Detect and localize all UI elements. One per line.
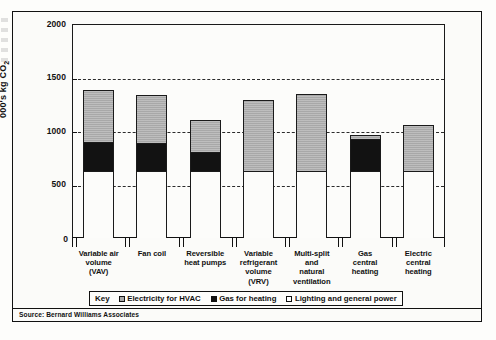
edge-artifact <box>1 38 8 42</box>
bar-7-segment-0 <box>403 172 434 238</box>
legend-item-lighting: Lighting and general power <box>286 294 396 303</box>
y-tick-zero-label: 0 <box>26 234 68 244</box>
x-category-label-3: Reversibleheat pumps <box>176 249 235 267</box>
x-tick-1 <box>125 238 126 247</box>
bar-3-segment-2 <box>190 120 221 153</box>
x-category-label-6: Gascentralheating <box>335 249 394 277</box>
bar-3 <box>190 120 221 238</box>
x-category-label-2: Fan coil <box>122 249 181 258</box>
bar-4-segment-0 <box>243 172 274 238</box>
bar-5-segment-0 <box>296 172 327 238</box>
legend-label-lighting: Lighting and general power <box>295 294 397 303</box>
bar-1-segment-0 <box>83 172 114 238</box>
x-category-label-5: Multi-splitandnaturalventilation <box>282 249 341 286</box>
edge-artifact <box>1 48 8 52</box>
bar-5 <box>296 94 327 238</box>
bar-2-segment-0 <box>136 172 167 238</box>
x-category-label-7: Electriccentralheating <box>389 249 448 277</box>
legend-label-gas: Gas for heating <box>219 294 276 303</box>
bar-1-segment-2 <box>83 90 114 144</box>
legend-item-electricity: Electricity for HVAC <box>119 294 201 303</box>
x-tick-inner-3 <box>236 238 237 247</box>
bar-1-segment-1 <box>83 143 114 171</box>
legend-swatch-electricity-icon <box>119 296 125 302</box>
bar-3-segment-1 <box>190 153 221 171</box>
bar-6 <box>350 135 381 238</box>
legend-swatch-gas-icon <box>211 296 217 302</box>
x-tick-2 <box>179 238 180 247</box>
y-tick-label-500: 500 <box>20 180 66 189</box>
x-axis-ticks <box>72 238 445 247</box>
x-tick-inner-1 <box>129 238 130 247</box>
x-tick-inner-4 <box>289 238 290 247</box>
y-tick-label-1000: 1000 <box>20 127 66 136</box>
x-category-label-1: Variable airvolume(VAV) <box>69 249 128 277</box>
legend-item-gas: Gas for heating <box>211 294 277 303</box>
bar-2-segment-2 <box>136 95 167 145</box>
bar-1 <box>83 90 114 238</box>
x-tick-3 <box>232 238 233 247</box>
bar-2 <box>136 95 167 238</box>
bar-4-segment-2 <box>243 100 274 172</box>
chart-page: 000's kg CO2 500100015002000 0 Variable … <box>0 0 496 340</box>
bar-5-segment-2 <box>296 94 327 172</box>
x-tick-inner-2 <box>183 238 184 247</box>
x-tick-5 <box>338 238 339 247</box>
y-tick-label-2000: 2000 <box>20 20 66 29</box>
edge-artifact <box>1 18 8 22</box>
bar-2-segment-1 <box>136 144 167 171</box>
bars-layer <box>72 24 445 238</box>
x-tick-6 <box>392 238 393 247</box>
x-tick-inner-6 <box>396 238 397 247</box>
x-tick-inner-5 <box>342 238 343 247</box>
source-divider <box>13 308 481 309</box>
bar-3-segment-0 <box>190 172 221 238</box>
x-tick-7 <box>444 238 445 247</box>
source-caption: Source: Bernard Williams Associates <box>19 311 139 318</box>
legend-label-electricity: Electricity for HVAC <box>127 294 201 303</box>
bar-7-segment-2 <box>403 125 434 172</box>
bar-6-segment-1 <box>350 140 381 172</box>
x-tick-0 <box>72 238 73 247</box>
x-tick-4 <box>285 238 286 247</box>
y-axis-title: 000's kg CO2 <box>0 61 10 118</box>
chart-legend: Key Electricity for HVAC Gas for heating… <box>89 291 403 306</box>
bar-7 <box>403 125 434 238</box>
x-axis-category-labels: Variable airvolume(VAV)Fan coilReversibl… <box>72 249 445 289</box>
x-tick-inner-0 <box>76 238 77 247</box>
legend-key-label: Key <box>95 294 110 303</box>
edge-artifact <box>1 28 8 32</box>
legend-swatch-lighting-icon <box>286 296 292 302</box>
bar-6-segment-0 <box>350 172 381 238</box>
x-category-label-4: Variablerefrigerantvolume(VRV) <box>229 249 288 286</box>
y-tick-label-1500: 1500 <box>20 73 66 82</box>
bar-4 <box>243 100 274 238</box>
